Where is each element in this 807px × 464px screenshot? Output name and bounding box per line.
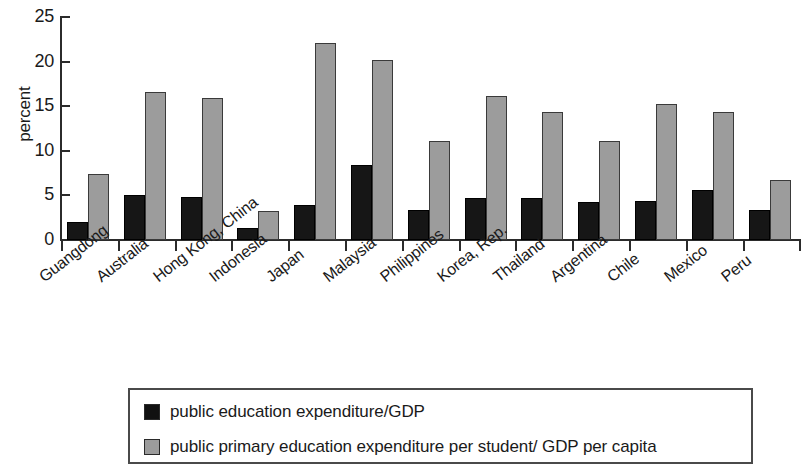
y-axis-line — [60, 16, 62, 240]
bar — [372, 60, 393, 240]
bar — [315, 43, 336, 240]
y-axis-tick — [62, 61, 70, 63]
legend-swatch-icon — [144, 404, 160, 420]
x-axis-category-label: Malaysia — [320, 234, 379, 285]
y-axis-tick — [62, 105, 70, 107]
x-axis-tick — [799, 241, 801, 251]
bar-chart: percent 0510152025 GuangdongAustraliaHon… — [0, 0, 807, 464]
bar — [521, 198, 542, 240]
y-axis-tick-label: 0 — [0, 230, 54, 248]
bar — [145, 92, 166, 240]
legend-item[interactable]: public education expenditure/GDP — [144, 403, 425, 421]
bar — [713, 112, 734, 240]
bar — [692, 190, 713, 240]
y-axis-tick-label: 5 — [0, 185, 54, 203]
bar — [542, 112, 563, 240]
x-axis-tick — [743, 241, 745, 251]
legend-item-label: public education expenditure/GDP — [170, 403, 425, 421]
x-axis-category-label: Japan — [263, 246, 307, 286]
bar — [351, 165, 372, 240]
y-axis-tick — [62, 194, 70, 196]
x-axis-category-label: Chile — [604, 250, 642, 285]
y-axis-tick — [62, 150, 70, 152]
bar — [749, 210, 770, 240]
bar — [656, 104, 677, 240]
bar — [429, 141, 450, 240]
legend-item[interactable]: public primary education expenditure per… — [144, 438, 657, 456]
bar — [294, 205, 315, 240]
bar — [124, 195, 145, 240]
y-axis-tick-label: 15 — [0, 96, 54, 114]
legend-item-label: public primary education expenditure per… — [170, 438, 657, 456]
bar — [635, 201, 656, 240]
y-axis-tick-label: 25 — [0, 7, 54, 25]
y-axis-tick-label: 20 — [0, 52, 54, 70]
y-axis-tick — [62, 16, 70, 18]
y-axis-tick-label: 10 — [0, 141, 54, 159]
bar — [770, 180, 791, 240]
bar — [486, 96, 507, 240]
x-axis-category-label: Peru — [717, 251, 753, 285]
bar — [599, 141, 620, 240]
legend-swatch-icon — [144, 439, 160, 455]
chart-legend: public education expenditure/GDP public … — [128, 388, 753, 464]
